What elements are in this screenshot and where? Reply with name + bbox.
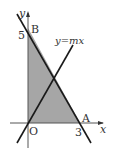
origin-label: O [29,125,38,138]
x-axis-label: x [100,123,107,136]
point-B-label: B [31,23,39,36]
coordinate-diagram: y B 5 y=mx O 3 A x [0,0,113,159]
x-intercept-value: 3 [75,126,82,139]
y-intercept-value: 5 [18,29,25,42]
y-axis-arrow-icon [26,11,30,17]
point-A-label: A [81,112,91,125]
line-y-mx-label: y=mx [54,35,85,46]
y-axis-label: y [18,7,26,20]
